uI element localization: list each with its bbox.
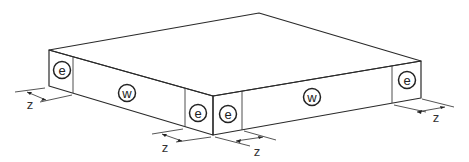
dimension-right: z bbox=[394, 99, 454, 125]
slab-edge-zone-diagram: z z z z e w e e bbox=[0, 0, 469, 162]
zone-marker-right-end: e bbox=[399, 72, 416, 89]
zone-marker-left-corner: e bbox=[190, 105, 207, 122]
dimension-left: z bbox=[15, 88, 72, 112]
dimension-front-right: z bbox=[215, 131, 276, 159]
zone-marker-left-middle: w bbox=[119, 85, 136, 102]
svg-text:e: e bbox=[58, 63, 65, 78]
dimension-label: z bbox=[27, 97, 34, 112]
zone-marker-right-corner: e bbox=[220, 106, 237, 123]
svg-text:e: e bbox=[194, 106, 201, 121]
dimension-front-left: z bbox=[152, 129, 211, 155]
slab-top-face bbox=[49, 13, 421, 96]
dimension-label: z bbox=[433, 110, 440, 125]
dimension-label: z bbox=[254, 144, 261, 159]
svg-text:w: w bbox=[306, 90, 317, 105]
zone-marker-left-end: e bbox=[54, 62, 71, 79]
svg-text:w: w bbox=[121, 86, 132, 101]
svg-text:e: e bbox=[224, 107, 231, 122]
svg-text:e: e bbox=[403, 73, 410, 88]
zone-marker-right-middle: w bbox=[304, 89, 321, 106]
dimension-label: z bbox=[162, 140, 169, 155]
